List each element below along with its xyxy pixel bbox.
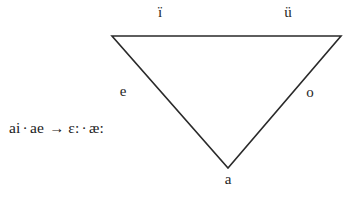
sound-change-target-second: æ:	[89, 119, 104, 136]
vowel-label-e: e	[110, 84, 136, 99]
sound-change-notation: ai·ae→ɛ:·æ:	[9, 119, 104, 137]
sound-change-separator-dot-left: ·	[21, 119, 30, 136]
triangle-outline	[112, 36, 341, 168]
sound-change-separator-dot-right: ·	[80, 119, 89, 136]
vowel-label-i-diaeresis: ï	[142, 5, 178, 20]
sound-change-source-second: ae	[30, 119, 44, 136]
arrow-right-icon: →	[44, 120, 68, 137]
sound-change-target-first: ɛ:	[68, 119, 79, 136]
vowel-triangle-shape	[0, 0, 352, 201]
vowel-label-o: o	[297, 85, 323, 100]
vowel-triangle-figure: ï ü e o a ai·ae→ɛ:·æ:	[0, 0, 352, 201]
vowel-label-u-diaeresis: ü	[270, 5, 306, 20]
vowel-label-a: a	[214, 172, 242, 187]
sound-change-source-first: ai	[9, 119, 21, 136]
